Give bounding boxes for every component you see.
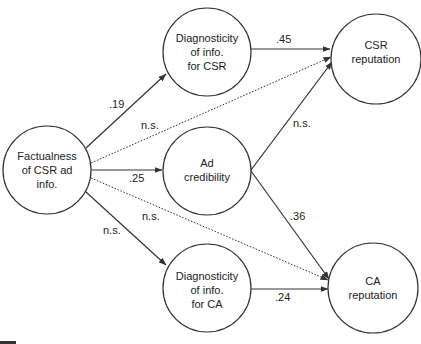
- node-factualness: Factualness of CSR ad info.: [3, 126, 91, 214]
- svg-text:Diagnosticity: Diagnosticity: [176, 270, 239, 282]
- svg-text:of info.: of info.: [190, 284, 223, 296]
- svg-text:Diagnosticity: Diagnosticity: [176, 32, 239, 44]
- edge-label: n.s.: [103, 224, 121, 236]
- node-csr-reputation: CSR reputation: [331, 14, 421, 104]
- svg-text:reputation: reputation: [349, 289, 398, 301]
- edge-ad-cred-to-csr-rep: [251, 62, 332, 170]
- edge-label: n.s.: [293, 117, 311, 129]
- edge-label: n.s.: [142, 210, 160, 222]
- svg-text:credibility: credibility: [184, 171, 230, 183]
- edge-label: .19: [109, 98, 124, 110]
- edge-factualness-to-diag-ca: [86, 192, 166, 265]
- node-diagnosticity-ca: Diagnosticity of info. for CA: [163, 244, 251, 332]
- node-ad-credibility: Ad credibility: [163, 127, 251, 215]
- path-diagram: .19 n.s. .25 n.s. n.s. .45 n.s. .36 .24 …: [0, 0, 421, 344]
- node-diagnosticity-csr: Diagnosticity of info. for CSR: [163, 8, 251, 96]
- svg-text:of CSR ad: of CSR ad: [22, 164, 73, 176]
- svg-text:for CA: for CA: [191, 298, 223, 310]
- svg-text:of info.: of info.: [190, 46, 223, 58]
- edge-label: .45: [276, 33, 291, 45]
- svg-text:CSR: CSR: [364, 39, 387, 51]
- edge-factualness-to-diag-csr: [86, 74, 166, 148]
- svg-text:Factualness: Factualness: [17, 150, 77, 162]
- svg-text:reputation: reputation: [352, 53, 401, 65]
- edge-label: .25: [129, 172, 144, 184]
- svg-text:Ad: Ad: [200, 157, 213, 169]
- svg-text:CA: CA: [365, 275, 381, 287]
- node-ca-reputation: CA reputation: [328, 243, 418, 333]
- edge-ad-cred-to-ca-rep: [251, 171, 329, 279]
- edge-label: .24: [275, 291, 290, 303]
- svg-text:info.: info.: [37, 178, 58, 190]
- edge-label: .36: [290, 210, 305, 222]
- edge-label: n.s.: [141, 119, 159, 131]
- svg-text:for CSR: for CSR: [187, 60, 226, 72]
